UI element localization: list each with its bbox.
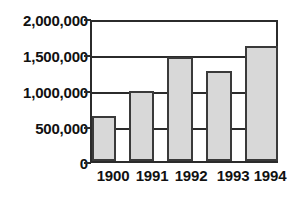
y-tick-label-0: 0 [4,156,88,171]
bar-1991 [129,91,154,161]
x-tick-label-1900: 1900 [97,168,130,183]
x-tick-label-1991: 1991 [136,168,169,183]
y-axis: 2,000,000 1,500,000 1,000,000 500,000 0 [0,0,88,201]
bar-1994 [245,46,278,161]
bar-1993 [206,71,232,161]
bar-1992 [167,57,193,161]
bar-1900 [92,116,116,161]
y-tick-label-2000000: 2,000,000 [4,13,88,28]
y-tick-label-1000000: 1,000,000 [4,85,88,100]
plot-area [90,20,278,163]
y-tick-label-500000: 500,000 [4,121,88,136]
x-tick-label-1993: 1993 [217,168,250,183]
x-axis: 1900 1991 1992 1993 1994 [90,168,278,192]
x-tick-label-1994: 1994 [254,168,287,183]
y-tick-label-1500000: 1,500,000 [4,49,88,64]
bar-chart-figure: 2,000,000 1,500,000 1,000,000 500,000 0 … [0,0,296,201]
x-tick-label-1992: 1992 [175,168,208,183]
bars-layer [92,22,276,161]
